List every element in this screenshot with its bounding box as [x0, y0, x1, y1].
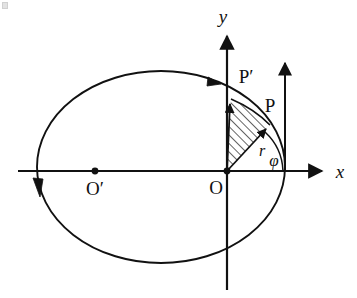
y-axis-label: y — [217, 6, 228, 27]
x-axis-label: x — [335, 161, 345, 182]
origin-dot — [224, 168, 231, 175]
angle-label-phi: φ — [269, 151, 278, 170]
ellipse-center-label: O′ — [86, 178, 104, 199]
radius-label-r: r — [259, 142, 266, 159]
elliptical-orbit — [37, 71, 285, 263]
ellipse-center-dot — [92, 168, 99, 175]
origin-label: O — [209, 177, 223, 198]
orbital-geometry-diagram: y x O O′ P′ P r φ — [0, 0, 357, 298]
swept-area-sector — [227, 99, 270, 171]
point-p-label: P — [265, 95, 276, 116]
point-p-prime-label: P′ — [239, 66, 254, 87]
corner-artifact — [2, 2, 8, 9]
figure-root: y x O O′ P′ P r φ — [0, 0, 357, 298]
